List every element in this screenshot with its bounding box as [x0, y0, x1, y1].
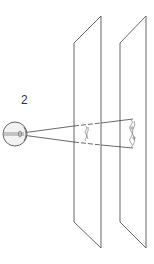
eye-planes-diagram	[0, 0, 154, 264]
far-plane	[120, 16, 146, 248]
visual-cone	[22, 119, 133, 148]
far-image-patch	[130, 120, 136, 148]
eye-icon	[3, 122, 27, 146]
near-image-patch	[85, 126, 88, 141]
figure-label: 2	[21, 93, 28, 107]
